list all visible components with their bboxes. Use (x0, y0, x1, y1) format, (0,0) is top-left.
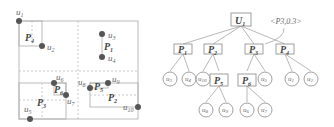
svg-text:u1: u1 (16, 7, 24, 18)
svg-text:u2: u2 (47, 42, 55, 53)
svg-text:P2: P2 (108, 92, 117, 104)
tree-edges (170, 26, 311, 102)
svg-text:u9: u9 (112, 74, 120, 85)
svg-text:P6: P6 (54, 84, 63, 96)
svg-text:u3: u3 (108, 30, 116, 41)
svg-text:u8: u8 (78, 77, 86, 88)
svg-text:u4: u4 (108, 53, 116, 64)
svg-text:u6: u6 (56, 72, 64, 83)
svg-text:P4: P4 (25, 32, 34, 44)
annotation-label: <P3,0.3> (270, 17, 302, 26)
svg-text:u7: u7 (67, 96, 76, 107)
svg-text:P3: P3 (37, 97, 46, 109)
index-diagram: u1 u2 u3 u4 u5 u6 u7 u8 u9 u10 P1 P2 P3 … (0, 0, 334, 127)
svg-text:P1: P1 (104, 41, 113, 53)
tree-nodes (163, 13, 318, 117)
svg-text:u5: u5 (24, 104, 32, 115)
svg-text:u10: u10 (123, 102, 134, 113)
